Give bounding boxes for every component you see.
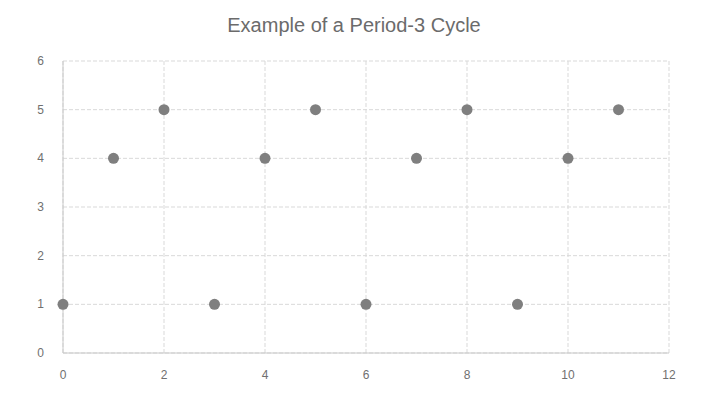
data-point-marker [361,299,372,310]
y-tick-label: 2 [37,249,44,263]
data-point-marker [260,153,271,164]
data-point-marker [411,153,422,164]
y-tick-label: 1 [37,297,44,311]
data-point-marker [512,299,523,310]
data-point-marker [462,104,473,115]
data-point-marker [310,104,321,115]
x-axis-ticks: 024681012 [60,368,676,382]
x-tick-label: 0 [60,368,67,382]
y-tick-label: 3 [37,200,44,214]
y-tick-label: 0 [37,346,44,360]
x-tick-label: 2 [161,368,168,382]
data-point-marker [613,104,624,115]
x-tick-label: 8 [464,368,471,382]
y-tick-label: 5 [37,103,44,117]
x-tick-label: 10 [561,368,575,382]
data-point-marker [108,153,119,164]
y-tick-label: 4 [37,151,44,165]
data-point-marker [159,104,170,115]
data-point-marker [58,299,69,310]
x-tick-label: 12 [662,368,676,382]
y-axis-ticks: 0123456 [37,54,44,360]
x-tick-label: 6 [363,368,370,382]
scatter-plot: 0123456 024681012 [0,0,708,409]
data-point-marker [209,299,220,310]
y-tick-label: 6 [37,54,44,68]
data-point-marker [563,153,574,164]
x-tick-label: 4 [262,368,269,382]
